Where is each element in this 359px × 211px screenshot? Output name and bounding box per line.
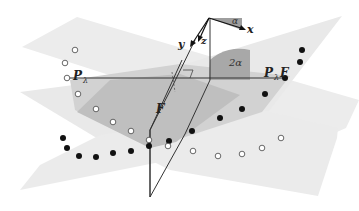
label-axis-x: x <box>246 23 254 36</box>
label-p-lambda-f: P <box>263 66 274 80</box>
label-f: F <box>155 102 166 116</box>
label-p-lambda-f-sub: λ <box>273 73 279 82</box>
label-p-lambda: P <box>72 69 83 83</box>
label-p-lambda-sub: λ <box>82 76 88 85</box>
label-two-alpha: 2α <box>228 57 242 68</box>
diagram-canvas: P λ P λ F F α 2α x y z <box>0 0 359 211</box>
label-p-lambda-f-suffix: F <box>279 66 290 80</box>
axis-y-arrow <box>190 40 196 47</box>
label-axis-z: z <box>200 35 207 46</box>
label-alpha: α <box>232 16 238 26</box>
